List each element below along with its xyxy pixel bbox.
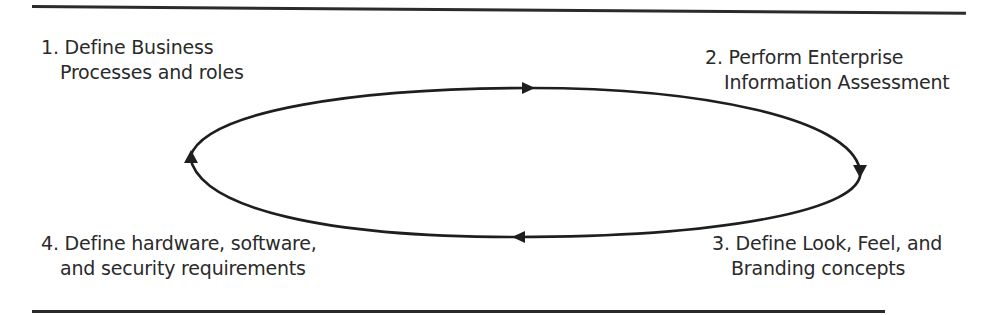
step-2-label: 2. Perform Enterprise Information Assess… (705, 45, 950, 95)
step-4-line2: and security requirements (41, 256, 317, 281)
cycle-path (190, 88, 860, 237)
step-2-line2: Information Assessment (705, 70, 950, 95)
step-1-line1: 1. Define Business (41, 35, 244, 60)
arrow-left-icon (512, 231, 525, 243)
step-2-line1: 2. Perform Enterprise (705, 45, 950, 70)
step-1-line2: Processes and roles (41, 60, 244, 85)
step-3-line2: Branding concepts (712, 256, 942, 281)
step-4-label: 4. Define hardware, software, and securi… (41, 231, 317, 281)
arrow-up-icon (184, 150, 198, 163)
bottom-rule (32, 310, 885, 313)
diagram-canvas: 1. Define Business Processes and roles 2… (0, 0, 997, 315)
arrow-right-icon (522, 82, 535, 94)
step-3-label: 3. Define Look, Feel, and Branding conce… (712, 231, 942, 281)
step-1-label: 1. Define Business Processes and roles (41, 35, 244, 85)
step-3-line1: 3. Define Look, Feel, and (712, 231, 942, 256)
step-4-line1: 4. Define hardware, software, (41, 231, 317, 256)
arrow-down-icon (853, 165, 867, 178)
